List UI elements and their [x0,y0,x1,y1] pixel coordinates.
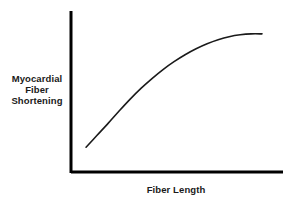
chart-page: Myocardial Fiber Shortening Fiber Length [0,0,299,203]
x-axis-label: Fiber Length [126,184,226,195]
y-axis-label: Myocardial Fiber Shortening [6,73,68,106]
